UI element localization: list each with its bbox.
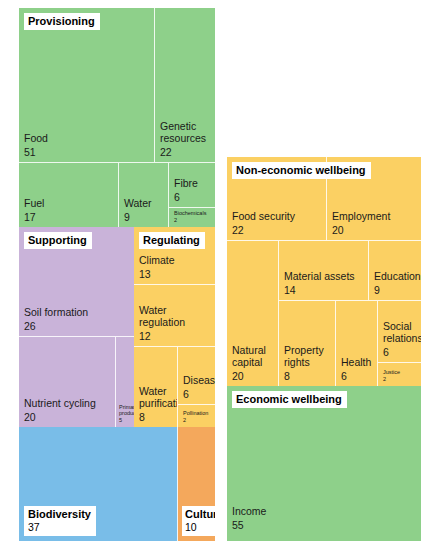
group-header-supporting: Supporting [24, 232, 92, 249]
label-water-purification: Water purification 8 [139, 385, 177, 423]
cell-water[interactable]: Water 9 [119, 163, 169, 227]
label-fuel: Fuel 17 [24, 197, 44, 223]
label-disease: Disease 6 [183, 374, 215, 400]
human-wellbeing-treemap: Food security 22 Employment 20 Natural c… [227, 157, 421, 541]
label-genetic-resources: Genetic resources 22 [160, 120, 215, 158]
label-education: Education 9 [374, 270, 421, 296]
cell-cultural[interactable]: Cultural 10 [178, 427, 215, 541]
cell-fibre[interactable]: Fibre 6 [169, 163, 215, 208]
label-fibre: Fibre 6 [174, 177, 198, 203]
cell-pollination[interactable]: Pollination 2 [178, 405, 215, 427]
cell-health[interactable]: Health 6 [336, 301, 378, 386]
label-nutrient-cycling: Nutrient cycling 20 [24, 397, 96, 423]
label-pollination: Pollination 2 [183, 410, 208, 423]
label-income: Income 55 [232, 505, 266, 531]
ecosystem-services-treemap: Food 51 Genetic resources 22 Fuel 17 Wat… [19, 8, 215, 541]
label-water-regulation: Water regulation 12 [139, 304, 215, 342]
group-header-regulating: Regulating [139, 232, 205, 249]
cell-education[interactable]: Education 9 [369, 241, 421, 301]
label-primary-production: Primary production 5 [119, 404, 134, 423]
group-header-economic-wellbeing: Economic wellbeing [232, 391, 347, 408]
cell-biochemicals[interactable]: Biochemicals 2 [169, 208, 215, 227]
label-health: Health 6 [341, 356, 371, 382]
cell-nutrient-cycling[interactable]: Nutrient cycling 20 [19, 337, 116, 427]
group-economic-wellbeing[interactable]: Income 55 [227, 386, 421, 541]
cell-water-regulation[interactable]: Water regulation 12 [134, 285, 215, 347]
label-property-rights: Property rights 8 [284, 344, 336, 382]
label-material-assets: Material assets 14 [284, 270, 355, 296]
cell-water-purification[interactable]: Water purification 8 [134, 347, 178, 427]
label-social-relations: Social relations 6 [383, 320, 421, 358]
label-natural-capital: Natural capital 20 [232, 344, 278, 382]
label-climate: Climate 13 [139, 254, 175, 280]
label-food: Food 51 [24, 132, 48, 158]
cell-property-rights[interactable]: Property rights 8 [279, 301, 336, 386]
cell-fuel[interactable]: Fuel 17 [19, 163, 119, 227]
group-header-cultural: Cultural 10 [182, 506, 215, 536]
group-header-non-economic-wellbeing: Non-economic wellbeing [232, 162, 371, 179]
cell-disease[interactable]: Disease 6 [178, 347, 215, 405]
label-water: Water 9 [124, 197, 152, 223]
cell-justice[interactable]: Justice 2 [378, 363, 421, 386]
label-food-security: Food security 22 [232, 210, 295, 236]
cell-food[interactable]: Food 51 [19, 8, 155, 163]
group-header-provisioning: Provisioning [24, 13, 100, 30]
label-biochemicals: Biochemicals 2 [174, 210, 206, 223]
cell-material-assets[interactable]: Material assets 14 [279, 241, 369, 301]
cell-biodiversity[interactable]: Biodiversity 37 [19, 427, 178, 541]
label-soil-formation: Soil formation 26 [24, 306, 88, 332]
cell-natural-capital[interactable]: Natural capital 20 [227, 241, 279, 386]
cell-primary-production[interactable]: Primary production 5 [116, 337, 134, 427]
cell-social-relations[interactable]: Social relations 6 [378, 301, 421, 363]
label-employment: Employment 20 [332, 210, 390, 236]
cell-genetic-resources[interactable]: Genetic resources 22 [155, 8, 215, 163]
group-header-biodiversity: Biodiversity 37 [24, 506, 96, 536]
label-justice: Justice 2 [383, 369, 400, 382]
